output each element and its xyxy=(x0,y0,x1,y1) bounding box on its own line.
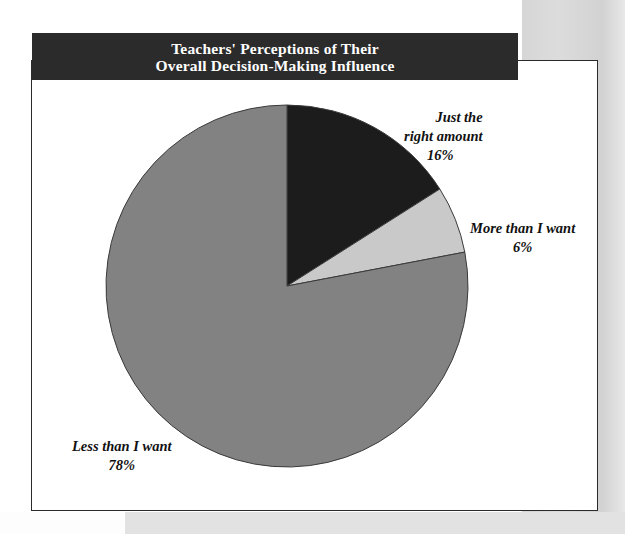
chart-title-banner: Teachers' Perceptions of Their Overall D… xyxy=(32,33,518,80)
pie-label-less-than-percent: 78% xyxy=(72,456,172,475)
chart-title-line-2: Overall Decision-Making Influence xyxy=(155,57,394,74)
pie-label-just-right-line1: Just the xyxy=(435,109,482,125)
chart-title-line-1: Teachers' Perceptions of Their xyxy=(171,40,379,57)
pie-label-less-than-line1: Less than I want xyxy=(72,438,172,454)
pie-label-just-right-amount: Just the right amount 16% xyxy=(404,108,483,165)
pie-label-just-right-line2: right amount xyxy=(404,128,483,144)
pie-label-more-than-i-want: More than I want 6% xyxy=(470,219,575,257)
scan-page-bottom-shadow xyxy=(125,512,625,534)
pie-label-just-right-percent: 16% xyxy=(404,146,483,165)
pie-label-more-than-percent: 6% xyxy=(470,238,575,257)
figure-page: Teachers' Perceptions of Their Overall D… xyxy=(0,0,625,534)
pie-label-less-than-i-want: Less than I want 78% xyxy=(72,437,172,475)
pie-label-more-than-line1: More than I want xyxy=(470,220,575,236)
